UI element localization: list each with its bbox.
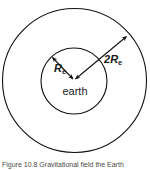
inner-radius-label: Re: [54, 63, 66, 74]
outer-radius-label: 2Re: [104, 54, 122, 65]
earth-label: earth: [0, 86, 150, 97]
inner-circle-earth: [41, 48, 107, 114]
outer-circle: [3, 9, 147, 153]
inner-radius-symbol: R: [54, 62, 62, 74]
figure-caption: Figure 10.8 Gravitational field the Eart…: [0, 161, 150, 170]
outer-radius-symbol: R: [110, 53, 118, 65]
outer-radius-subscript: e: [118, 58, 122, 67]
inner-radius-subscript: e: [62, 67, 66, 76]
figure-container: 2Re Re earth Figure 10.8 Gravitational f…: [0, 0, 150, 170]
